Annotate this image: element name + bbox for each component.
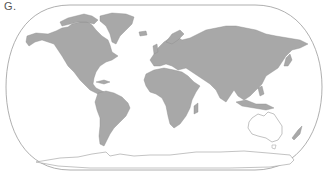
iceland (139, 31, 147, 36)
world-map (0, 0, 325, 174)
tasmania (272, 145, 276, 149)
british-isles (153, 44, 158, 54)
